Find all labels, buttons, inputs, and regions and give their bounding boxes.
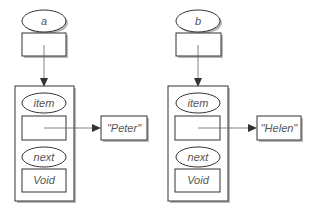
value-peter-label: "Peter" <box>107 122 142 134</box>
value-helen-label: "Helen" <box>261 122 299 134</box>
next-field-label-b: next <box>176 147 220 167</box>
svg-text:next: next <box>188 151 210 163</box>
group-b: b item "Helen" next <box>168 10 303 203</box>
variable-b-label: b <box>195 15 201 27</box>
reference-box-b <box>176 33 223 58</box>
next-field-label-a: next <box>22 147 66 167</box>
reference-box-a <box>22 33 68 58</box>
svg-text:next: next <box>34 151 56 163</box>
next-field-box-b: Void <box>175 169 220 192</box>
next-field-box-a: Void <box>22 169 66 192</box>
group-a: a item "Pet <box>15 10 149 203</box>
value-box-peter: "Peter" <box>101 116 149 142</box>
variable-b-ellipse: b <box>176 10 222 34</box>
item-field-label-b: item <box>176 93 220 113</box>
item-field-label-a: item <box>22 93 66 113</box>
variable-a-label: a <box>41 15 47 27</box>
void-label-a: Void <box>33 174 55 186</box>
void-label-b: Void <box>187 174 209 186</box>
value-box-helen: "Helen" <box>257 116 303 142</box>
linked-list-diagram: a item "Pet <box>0 0 314 212</box>
variable-a-ellipse: a <box>22 10 68 34</box>
svg-text:item: item <box>34 97 55 109</box>
svg-text:item: item <box>188 97 209 109</box>
